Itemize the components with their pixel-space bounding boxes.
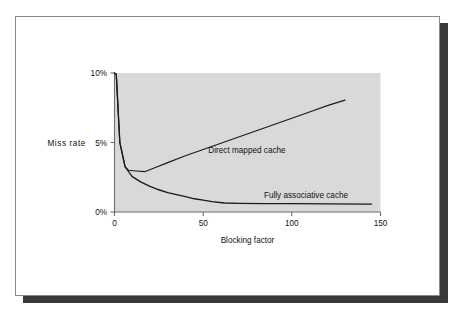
series-label-direct-mapped-cache: Direct mapped cache bbox=[208, 146, 286, 155]
ytick-label-0: 0% bbox=[95, 208, 107, 217]
miss-rate-vs-blocking-factor-chart: 10% 5% 0% 0 50 100 150 Blocking factor M… bbox=[16, 17, 441, 297]
figure-frame: 10% 5% 0% 0 50 100 150 Blocking factor M… bbox=[15, 16, 440, 296]
series-label-fully-associative-cache: Fully associative cache bbox=[264, 191, 349, 200]
xtick-label-0: 0 bbox=[112, 219, 117, 228]
x-axis-title: Blocking factor bbox=[221, 236, 275, 245]
xtick-label-150: 150 bbox=[374, 219, 388, 228]
chart-canvas: 10% 5% 0% 0 50 100 150 Blocking factor M… bbox=[16, 17, 441, 297]
ytick-label-5: 5% bbox=[95, 139, 107, 148]
screenshot-root: 10% 5% 0% 0 50 100 150 Blocking factor M… bbox=[0, 0, 463, 316]
xtick-label-100: 100 bbox=[285, 219, 299, 228]
xtick-label-50: 50 bbox=[199, 219, 209, 228]
y-axis-title: Miss rate bbox=[47, 139, 86, 148]
ytick-label-10: 10% bbox=[91, 69, 107, 78]
